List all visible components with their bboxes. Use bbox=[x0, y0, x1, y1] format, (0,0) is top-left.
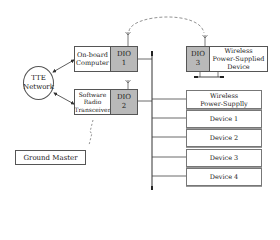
device-4-label: Device 4 bbox=[210, 173, 239, 181]
device-4-box: Device 4 bbox=[186, 168, 262, 186]
device-1-label: Device 1 bbox=[210, 115, 239, 123]
wireless-supply-box: Wireless Power-Supplly bbox=[186, 90, 262, 109]
ground-master-box: Ground Master bbox=[15, 150, 86, 165]
wireless-supply-label: Wireless Power-Supplly bbox=[200, 92, 248, 108]
onboard-computer-box: On-board Computer bbox=[74, 46, 111, 72]
device-3-box: Device 3 bbox=[186, 149, 262, 167]
ground-master-label: Ground Master bbox=[23, 154, 77, 162]
dio1-box: DIO 1 bbox=[110, 46, 138, 72]
device-3-label: Device 3 bbox=[210, 154, 239, 162]
tte-network-label: TTE Network bbox=[23, 74, 54, 92]
dio3-label: DIO 3 bbox=[191, 50, 205, 68]
dio2-label: DIO 2 bbox=[117, 93, 131, 111]
wireless-device-box: Wireless Power-Supplied Device bbox=[209, 46, 268, 72]
dio1-label: DIO 1 bbox=[117, 50, 131, 68]
device-2-label: Device 2 bbox=[210, 134, 239, 142]
onboard-computer-label: On-board Computer bbox=[76, 51, 109, 67]
software-radio-label: Software Radio Transceiver bbox=[74, 91, 110, 114]
dio3-box: DIO 3 bbox=[186, 46, 210, 72]
software-radio-box: Software Radio Transceiver bbox=[74, 89, 111, 115]
wireless-device-label: Wireless Power-Supplied Device bbox=[213, 47, 265, 71]
device-1-box: Device 1 bbox=[186, 110, 262, 128]
dio2-box: DIO 2 bbox=[110, 89, 138, 115]
device-2-box: Device 2 bbox=[186, 129, 262, 147]
tte-network-node: TTE Network bbox=[23, 66, 54, 100]
